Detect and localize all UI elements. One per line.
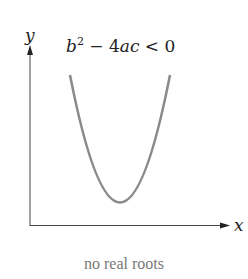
y-axis-label: y	[24, 25, 35, 45]
y-axis-arrow-icon	[27, 45, 33, 55]
x-axis-label: x	[234, 215, 244, 235]
discriminant-condition: b2 − 4ac < 0	[66, 35, 175, 56]
parabola-curve	[70, 75, 170, 203]
caption: no real roots	[0, 255, 248, 273]
parabola-diagram: y x b2 − 4ac < 0	[0, 0, 248, 279]
x-axis-arrow-icon	[220, 223, 230, 229]
